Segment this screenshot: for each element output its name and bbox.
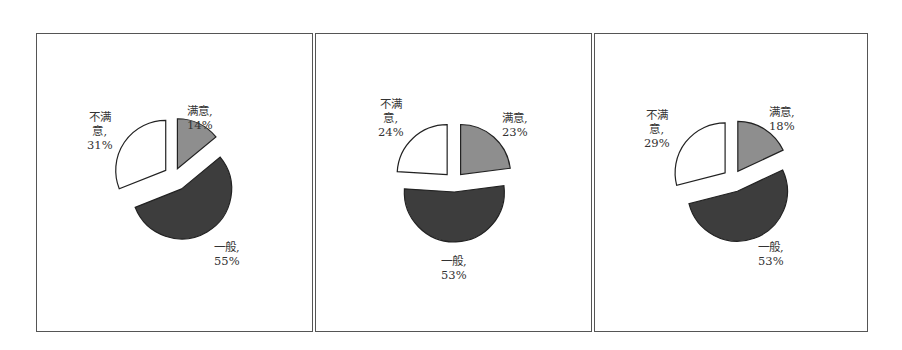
pie-panel-1: 满意, 14% 一般, 55% 不满 意, 31% [36,33,313,332]
pie-panel-3: 满意, 18% 一般, 53% 不满 意, 29% [594,33,868,332]
label-unsatisfied: 不满 意, 29% [644,108,670,150]
slice-unsatisfied [675,123,725,185]
label-unsatisfied: 不满 意, 31% [87,110,113,152]
label-satisfied: 满意, 18% [769,105,795,133]
label-satisfied: 满意, 23% [502,111,528,139]
pie-chart-3 [595,34,869,333]
label-general: 一般, 53% [758,240,784,268]
pie-panel-2: 满意, 23% 一般, 53% 不满 意, 24% [315,33,592,332]
slice-general [689,170,787,241]
label-satisfied: 满意, 14% [187,104,213,132]
label-general: 一般, 55% [214,240,240,268]
pie-chart-1 [37,34,314,333]
slice-general [404,186,504,242]
label-unsatisfied: 不满 意, 24% [378,97,404,139]
pie-chart-2 [316,34,593,333]
slice-unsatisfied [397,125,447,175]
label-general: 一般, 53% [441,254,467,282]
slice-unsatisfied [116,120,166,188]
